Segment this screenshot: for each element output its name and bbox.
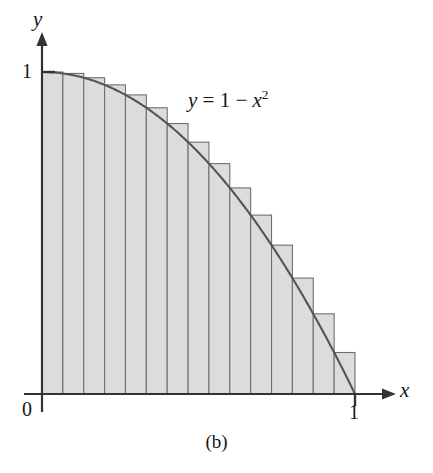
y-axis-arrowhead bbox=[36, 32, 47, 46]
x-axis-label: x bbox=[400, 380, 409, 401]
riemann-rectangle bbox=[209, 164, 230, 394]
riemann-rectangle bbox=[272, 245, 293, 394]
riemann-rectangles bbox=[42, 72, 355, 394]
origin-label: 0 bbox=[22, 399, 32, 419]
riemann-rectangle bbox=[84, 78, 105, 394]
riemann-rectangle bbox=[188, 142, 209, 394]
plot-canvas bbox=[0, 0, 433, 473]
y-axis-label: y bbox=[33, 9, 42, 30]
riemann-rectangle bbox=[105, 85, 126, 394]
riemann-rectangle bbox=[230, 188, 251, 394]
riemann-rectangle bbox=[313, 314, 334, 394]
riemann-rectangle bbox=[42, 72, 63, 394]
figure-caption: (b) bbox=[0, 432, 433, 451]
y-axis-tick-label-1: 1 bbox=[22, 61, 32, 81]
x-axis-arrowhead bbox=[382, 388, 396, 399]
riemann-rectangle bbox=[167, 124, 188, 394]
equation-x-symbol: x bbox=[253, 88, 262, 112]
equation-body: = 1 − bbox=[197, 88, 252, 112]
riemann-rectangle bbox=[146, 108, 167, 394]
riemann-rectangle bbox=[125, 95, 146, 394]
equation-exponent: 2 bbox=[262, 87, 269, 102]
equation-y-symbol: y bbox=[188, 88, 197, 112]
curve-equation-label: y = 1 − x2 bbox=[188, 90, 269, 111]
riemann-sum-figure: y 1 x 1 0 y = 1 − x2 (b) bbox=[0, 0, 433, 473]
riemann-rectangle bbox=[63, 73, 84, 394]
x-axis-tick-label-1: 1 bbox=[349, 402, 359, 422]
